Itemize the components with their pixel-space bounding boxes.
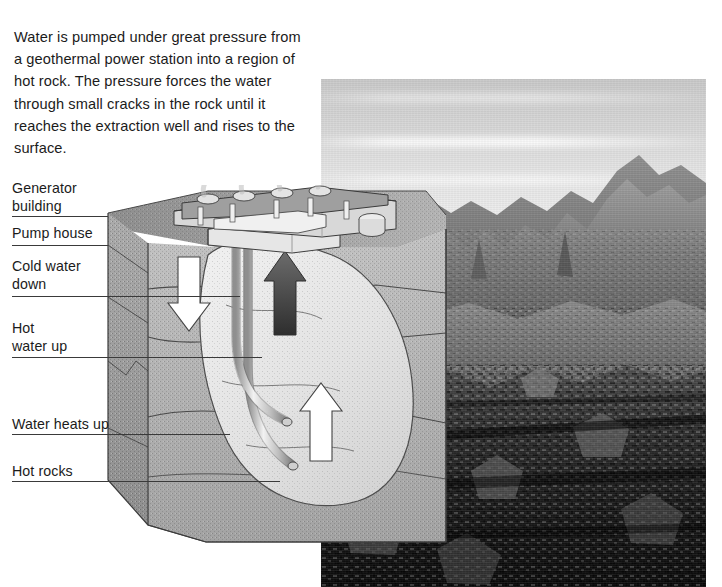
leader-hot-water-up	[12, 357, 262, 358]
storage-tank	[359, 214, 385, 237]
leader-water-heats-up	[12, 434, 230, 435]
label-hot-rocks: Hot rocks	[12, 463, 73, 481]
leader-hot-rocks	[12, 481, 280, 482]
intro-paragraph: Water is pumped under great pressure fro…	[14, 26, 304, 159]
label-pump-house: Pump house	[12, 225, 93, 243]
leader-generator-building	[12, 216, 108, 217]
label-hot-water-up: Hot water up	[12, 320, 67, 355]
label-generator-building: Generator building	[12, 180, 77, 215]
geothermal-power-station-cutaway	[96, 185, 456, 550]
page-root: Water is pumped under great pressure fro…	[0, 0, 722, 587]
cut-face-left	[108, 213, 148, 525]
leader-pump-house	[12, 245, 108, 246]
label-cold-water-down: Cold water down	[12, 258, 81, 293]
leader-cold-water-down	[12, 296, 240, 297]
label-water-heats-up: Water heats up	[12, 416, 109, 434]
